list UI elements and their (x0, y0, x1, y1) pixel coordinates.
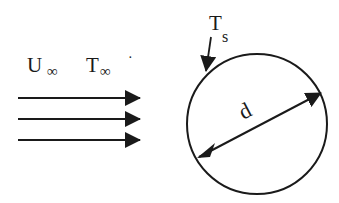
velocity-symbol: U (27, 53, 42, 77)
surface-leader-arrow-icon (206, 37, 211, 71)
trailing-mark: · (128, 50, 133, 65)
flow-arrows (18, 98, 140, 140)
surface-temperature-subscript: s (222, 28, 228, 45)
cylinder-outline (187, 54, 327, 194)
diameter-arrow-icon (199, 93, 321, 157)
surface-temperature-symbol: T (209, 11, 222, 35)
velocity-subscript: ∞ (47, 63, 58, 79)
diameter-label: d (234, 97, 255, 124)
free-stream-labels: U ∞ T ∞ · (27, 50, 133, 79)
diameter-annotation: d (197, 93, 321, 158)
temperature-symbol: T (86, 53, 99, 77)
crossflow-diagram: U ∞ T ∞ · T s d (0, 0, 339, 203)
temperature-subscript: ∞ (100, 63, 111, 79)
